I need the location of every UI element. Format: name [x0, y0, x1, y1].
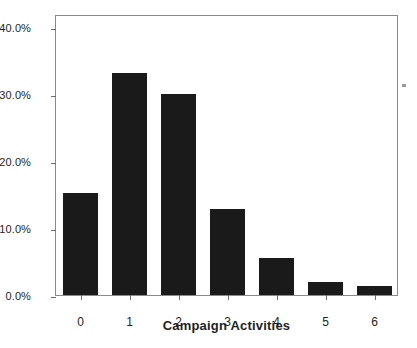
bar — [357, 286, 392, 295]
x-axis-tick-mark — [326, 295, 327, 300]
x-axis-tick-mark — [179, 295, 180, 300]
y-axis-tick-label: 10.0% — [0, 224, 31, 235]
x-axis-tick-mark — [81, 295, 82, 300]
y-axis-tick-label: 0.0% — [0, 291, 31, 302]
y-axis-tick-label: 40.0% — [0, 23, 31, 34]
bar — [161, 94, 196, 295]
x-axis-tick-mark — [277, 295, 278, 300]
bar — [63, 193, 98, 295]
bar — [112, 73, 147, 295]
y-axis-tick-mark — [51, 96, 56, 97]
x-axis-tick-mark — [228, 295, 229, 300]
scan-artifact — [402, 84, 406, 87]
bar-chart: 0.0%10.0%20.0%30.0%40.0%0123456 Campaign… — [0, 0, 417, 348]
plot-area: 0.0%10.0%20.0%30.0%40.0%0123456 — [55, 15, 398, 296]
bar — [259, 258, 294, 295]
x-axis-tick-mark — [130, 295, 131, 300]
y-axis-tick-mark — [51, 297, 56, 298]
y-axis-tick-label: 30.0% — [0, 90, 31, 101]
y-axis-tick-mark — [51, 163, 56, 164]
bar — [308, 282, 343, 295]
y-axis-tick-label: 20.0% — [0, 157, 31, 168]
x-axis-tick-mark — [375, 295, 376, 300]
bar — [210, 209, 245, 295]
x-axis-title: Campaign Activities — [55, 318, 398, 333]
y-axis-tick-mark — [51, 230, 56, 231]
y-axis-tick-mark — [51, 29, 56, 30]
